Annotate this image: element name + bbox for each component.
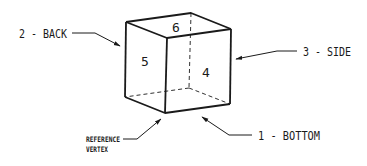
face-number-side: 4 <box>202 65 210 80</box>
face-number-top: 6 <box>172 20 180 35</box>
callout-side-label: 3 - SIDE <box>303 45 351 59</box>
right-vertical-edge <box>230 29 231 104</box>
callout-bottom-label: 1 - BOTTOM <box>258 129 320 143</box>
left-vertical-edge <box>125 22 126 97</box>
reference-vertex-leader-arrow <box>123 119 161 139</box>
back-leader-arrow <box>72 33 120 46</box>
leader-lines <box>72 33 297 139</box>
callout-reference-label-line2: VERTEX <box>86 145 108 154</box>
callout-back-label: 2 - BACK <box>19 27 68 41</box>
cube-diagram: 6 5 4 2 - BACK 3 - SIDE 1 - BOTTOM REFER… <box>0 0 367 166</box>
callout-reference-label-line1: REFERENCE <box>86 135 120 144</box>
face-number-back: 5 <box>141 54 149 69</box>
hidden-bottom-left-edge <box>125 88 189 97</box>
hidden-bottom-right-edge <box>189 88 230 104</box>
diagram-canvas: 6 5 4 2 - BACK 3 - SIDE 1 - BOTTOM REFER… <box>0 0 367 166</box>
hidden-vertical-edge <box>189 13 191 88</box>
side-leader-arrow <box>236 51 297 59</box>
front-vertical-edge <box>165 38 167 113</box>
bottom-leader-arrow <box>202 117 252 135</box>
bottom-front-edges <box>125 97 230 113</box>
